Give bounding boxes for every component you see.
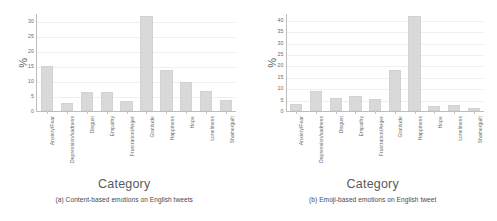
- x-label-slot: Empathy: [345, 116, 365, 182]
- x-label-slot: Happiness: [156, 116, 176, 182]
- bar: [290, 104, 302, 111]
- x-label-slot: Depression/sadness: [56, 116, 76, 182]
- subfigure-caption-b: (b) Emoji-based emotions on English twee…: [249, 196, 497, 203]
- x-tick-mark: [375, 111, 376, 114]
- bar-slot: [287, 14, 307, 111]
- x-label-slot: Disgust: [325, 116, 345, 182]
- x-tick-mark: [355, 111, 356, 114]
- y-tick-b-25: 25: [278, 52, 284, 57]
- bar-slot: [346, 14, 366, 111]
- bar-slot: [326, 14, 346, 111]
- x-tick-label: Depression/sadness: [318, 116, 324, 163]
- x-tick-mark: [67, 111, 68, 114]
- x-tick-label: Happiness: [169, 116, 175, 141]
- bar-slot: [176, 14, 196, 111]
- x-label-slot: Gratitude: [384, 116, 404, 182]
- bar-series-a: [37, 14, 236, 111]
- bar: [369, 99, 381, 111]
- x-label-slot: Anxiety/Fear: [36, 116, 56, 182]
- bar-series-b: [287, 14, 484, 111]
- x-tick-mark: [166, 111, 167, 114]
- bar-slot: [424, 14, 444, 111]
- x-label-slot: Empathy: [96, 116, 116, 182]
- x-tick-label: Depression/sadness: [69, 116, 75, 163]
- y-tick-a-30: 30: [28, 19, 34, 24]
- x-tick-label: Empathy: [358, 116, 364, 136]
- x-label-slot: Gratitude: [136, 116, 156, 182]
- x-label-slot: Depression/sadness: [305, 116, 325, 182]
- x-tick-mark: [146, 111, 147, 114]
- x-tick-mark: [87, 111, 88, 114]
- bar-slot: [156, 14, 176, 111]
- bar: [180, 82, 192, 111]
- x-tick-mark: [316, 111, 317, 114]
- bar-slot: [464, 14, 484, 111]
- bar: [310, 91, 322, 111]
- x-tick-mark: [395, 111, 396, 114]
- x-tick-mark: [474, 111, 475, 114]
- plot-area-a: % 051015202530: [0, 0, 249, 118]
- y-tick-b-40: 40: [278, 18, 284, 23]
- x-tick-label: Anxiety/Fear: [298, 116, 304, 145]
- x-tick-label: Frustration/Anger: [129, 116, 135, 156]
- x-tick-mark: [206, 111, 207, 114]
- x-axis-title-a: Category: [0, 177, 249, 191]
- bar-slot: [216, 14, 236, 111]
- y-tick-b-30: 30: [278, 41, 284, 46]
- y-tick-labels-a: 051015202530: [11, 14, 34, 112]
- x-label-slot: Shame/guilt: [216, 116, 236, 182]
- x-label-slot: Disgust: [76, 116, 96, 182]
- x-label-slot: Loneliness: [444, 116, 464, 182]
- x-tick-mark: [107, 111, 108, 114]
- bar-slot: [57, 14, 77, 111]
- bar: [101, 92, 113, 111]
- x-tick-label: Loneliness: [209, 116, 215, 141]
- bar: [41, 66, 53, 111]
- x-tick-label: Empathy: [109, 116, 115, 136]
- axes-a: [36, 14, 236, 112]
- x-axis-title-b: Category: [249, 177, 497, 191]
- y-tick-a-15: 15: [28, 64, 34, 69]
- x-tick-mark: [296, 111, 297, 114]
- bar: [408, 16, 420, 111]
- y-tick-a-0: 0: [31, 109, 34, 114]
- bar-slot: [365, 14, 385, 111]
- subfigure-content-based: % 051015202530 Anxiety/FearDepression/sa…: [0, 0, 249, 221]
- bar: [61, 103, 73, 111]
- x-label-slot: Hope: [424, 116, 444, 182]
- x-label-slot: Happiness: [404, 116, 424, 182]
- axes-b: [286, 14, 484, 112]
- x-tick-label: Frustration/Anger: [378, 116, 384, 156]
- y-tick-a-5: 5: [31, 94, 34, 99]
- bar-slot: [385, 14, 405, 111]
- bar-slot: [444, 14, 464, 111]
- bar: [200, 91, 212, 111]
- x-tick-label: Hope: [189, 116, 195, 128]
- bar-slot: [77, 14, 97, 111]
- x-label-slot: Frustration/Anger: [365, 116, 385, 182]
- x-label-slot: Loneliness: [196, 116, 216, 182]
- x-tick-mark: [336, 111, 337, 114]
- x-tick-label: Shame/guilt: [229, 116, 235, 143]
- y-tick-a-20: 20: [28, 49, 34, 54]
- subfigure-caption-a: (a) Content-based emotions on English tw…: [0, 196, 249, 203]
- x-tick-labels-a: Anxiety/FearDepression/sadnessDisgustEmp…: [36, 116, 236, 182]
- x-tick-mark: [454, 111, 455, 114]
- x-tick-mark: [47, 111, 48, 114]
- bar: [220, 100, 232, 111]
- bar-slot: [97, 14, 117, 111]
- y-tick-labels-b: 0510152025303540: [261, 14, 284, 112]
- x-label-slot: Shame/guilt: [464, 116, 484, 182]
- x-label-slot: Frustration/Anger: [116, 116, 136, 182]
- y-tick-a-10: 10: [28, 79, 34, 84]
- x-tick-label: Gratitude: [397, 116, 403, 137]
- subfigure-emoji-based: % 0510152025303540 Anxiety/FearDepressio…: [249, 0, 497, 221]
- bar: [330, 98, 342, 111]
- bar-slot: [37, 14, 57, 111]
- x-tick-label: Loneliness: [457, 116, 463, 141]
- y-tick-a-25: 25: [28, 34, 34, 39]
- bar-slot: [137, 14, 157, 111]
- x-tick-mark: [226, 111, 227, 114]
- x-tick-labels-b: Anxiety/FearDepression/sadnessDisgustEmp…: [286, 116, 484, 182]
- x-tick-mark: [127, 111, 128, 114]
